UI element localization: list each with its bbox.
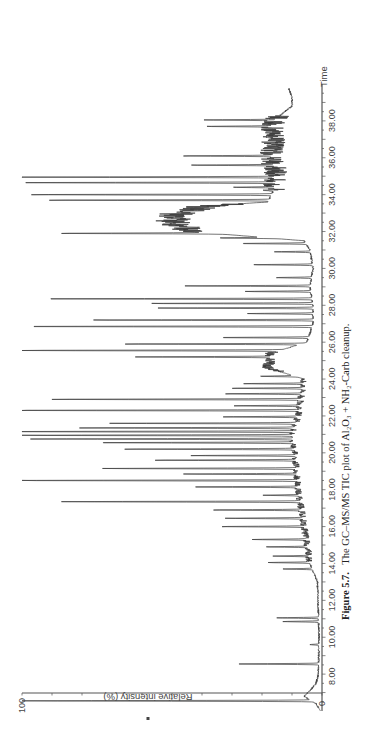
caption-text: The GC–MS/MS TIC plot of Al₂O₃ + NH₂-Car…: [340, 324, 351, 565]
time-tick-label: 18.00: [327, 478, 337, 501]
axis-marker-square: [147, 717, 150, 720]
intensity-axis: 0100Relative intensity (%): [17, 692, 327, 720]
time-tick-label: 14.00: [327, 552, 337, 575]
time-tick-label: 28.00: [327, 294, 337, 317]
time-tick-label: 8.00: [327, 668, 337, 686]
intensity-tick-0: 0: [317, 701, 327, 706]
time-tick-label: 12.00: [327, 589, 337, 612]
figure-caption: Figure 5.7. The GC–MS/MS TIC plot of Al₂…: [340, 324, 351, 620]
caption-label: Figure 5.7.: [340, 572, 351, 620]
time-tick-label: 34.00: [327, 183, 337, 206]
time-tick-label: 30.00: [327, 257, 337, 280]
time-tick-label: 24.00: [327, 368, 337, 391]
time-tick-label: 22.00: [327, 404, 337, 427]
svg-text:Figure 5.7. The GC–MS/MS: Figure 5.7. The GC–MS/MS TIC plot of Al₂…: [340, 324, 351, 620]
time-tick-label: 26.00: [327, 331, 337, 354]
time-tick-label: 32.00: [327, 220, 337, 243]
intensity-axis-label: Relative intensity (%): [103, 692, 192, 703]
time-axis: 8.0010.0012.0014.0016.0018.0020.0022.002…: [318, 66, 337, 711]
time-tick-label: 36.00: [327, 146, 337, 169]
tic-chromatogram-chart: 8.0010.0012.0014.0016.0018.0020.0022.002…: [0, 0, 365, 739]
time-tick-label: 20.00: [327, 441, 337, 464]
time-axis-label: Time: [318, 66, 329, 87]
time-tick-label: 16.00: [327, 515, 337, 538]
tic-trace: [22, 89, 321, 711]
time-tick-label: 38.00: [327, 109, 337, 132]
intensity-tick-100: 100: [17, 698, 27, 713]
time-tick-label: 10.00: [327, 626, 337, 649]
